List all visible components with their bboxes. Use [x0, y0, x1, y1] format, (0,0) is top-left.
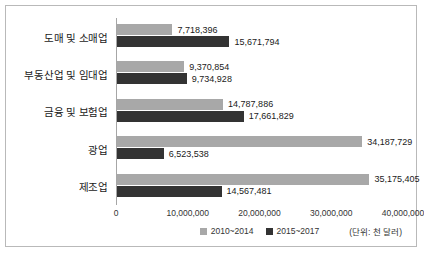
- category-row: 금융 및 보험업14,787,88617,661,829: [116, 93, 403, 130]
- category-label: 제조업: [79, 179, 108, 194]
- legend-swatch-icon: [200, 228, 207, 235]
- category-row: 광업34,187,7296,523,538: [116, 130, 403, 167]
- category-label: 광업: [88, 141, 108, 156]
- bar-value-label: 9,370,854: [189, 62, 229, 72]
- category-label: 금융 및 보험업: [44, 104, 108, 119]
- x-axis: 010,000,00020,000,00030,000,00040,000,00…: [116, 205, 403, 221]
- category-row: 부동산업 및 임대업9,370,8549,734,928: [116, 55, 403, 92]
- legend-item[interactable]: 2010~2014: [200, 226, 254, 236]
- bar-series-1: 14,787,886: [117, 99, 223, 110]
- plot-area: 도매 및 소매업7,718,39615,671,794부동산업 및 임대업9,3…: [116, 18, 403, 205]
- x-axis-tick-label: 30,000,000: [310, 208, 353, 218]
- legend-label: 2010~2014: [211, 226, 254, 236]
- bar-series-2: 15,671,794: [117, 36, 229, 47]
- bar-value-label: 34,187,729: [367, 137, 412, 147]
- bar-value-label: 7,718,396: [177, 25, 217, 35]
- bar-series-2: 17,661,829: [117, 111, 244, 122]
- legend-item[interactable]: 2015~2017: [266, 226, 320, 236]
- legend-label: 2015~2017: [277, 226, 320, 236]
- bar-series-2: 9,734,928: [117, 73, 187, 84]
- category-label: 부동산업 및 임대업: [24, 67, 108, 82]
- unit-note: (단위: 천 달러): [349, 225, 402, 237]
- bar-series-1: 7,718,396: [117, 24, 172, 35]
- bar-series-1: 35,175,405: [117, 174, 369, 185]
- bar-series-2: 14,567,481: [117, 186, 222, 197]
- bar-value-label: 35,175,405: [374, 174, 419, 184]
- bar-series-2: 6,523,538: [117, 148, 164, 159]
- bar-value-label: 14,567,481: [227, 186, 272, 196]
- bar-value-label: 17,661,829: [249, 111, 294, 121]
- category-label: 도매 및 소매업: [44, 29, 108, 44]
- x-axis-tick-label: 0: [114, 208, 119, 218]
- bar-value-label: 6,523,538: [169, 149, 209, 159]
- x-axis-tick-label: 40,000,000: [382, 208, 424, 218]
- x-axis-tick-label: 10,000,000: [166, 208, 209, 218]
- category-row: 도매 및 소매업7,718,39615,671,794: [116, 18, 403, 55]
- bar-value-label: 15,671,794: [234, 37, 279, 47]
- bar-value-label: 9,734,928: [192, 74, 232, 84]
- bar-series-1: 34,187,729: [117, 136, 362, 147]
- x-axis-tick-label: 20,000,000: [238, 208, 281, 218]
- legend-swatch-icon: [266, 228, 273, 235]
- category-row: 제조업35,175,40514,567,481: [116, 168, 403, 205]
- chart-frame: 도매 및 소매업7,718,39615,671,794부동산업 및 임대업9,3…: [5, 5, 417, 247]
- bar-series-1: 9,370,854: [117, 61, 184, 72]
- bar-value-label: 14,787,886: [228, 99, 273, 109]
